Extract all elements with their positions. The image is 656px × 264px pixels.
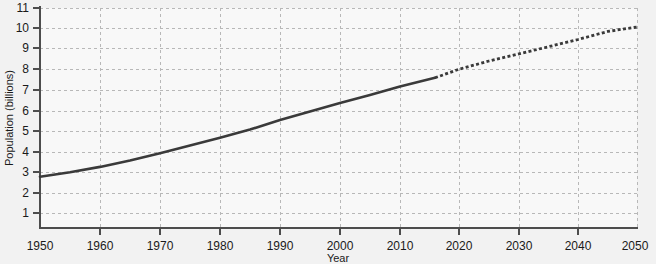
- y-axis-title: Population (billions): [3, 70, 15, 166]
- xtick-label-1960: 1960: [87, 239, 114, 253]
- xtick-label-1990: 1990: [267, 239, 294, 253]
- ytick-label-6: 6: [22, 104, 29, 118]
- ytick-label-7: 7: [22, 83, 29, 97]
- ytick-label-3: 3: [22, 165, 29, 179]
- ytick-label-4: 4: [22, 145, 29, 159]
- xtick-label-1950: 1950: [27, 239, 54, 253]
- ytick-label-8: 8: [22, 62, 29, 76]
- x-axis-title: Year: [327, 252, 350, 264]
- xtick-label-2030: 2030: [506, 239, 533, 253]
- ytick-label-2: 2: [22, 186, 29, 200]
- ytick-label-1: 1: [22, 206, 29, 220]
- population-chart: 11 10 9 8 7 6 5 4 3 2 1 1950 1960 1970 1…: [0, 0, 656, 264]
- ytick-label-11: 11: [17, 1, 30, 15]
- plot-area-background: [40, 8, 637, 228]
- xtick-label-2020: 2020: [446, 239, 473, 253]
- ytick-label-9: 9: [22, 41, 29, 55]
- xtick-label-2040: 2040: [565, 239, 592, 253]
- chart-canvas: 11 10 9 8 7 6 5 4 3 2 1 1950 1960 1970 1…: [0, 0, 656, 264]
- xtick-label-2010: 2010: [387, 239, 414, 253]
- xtick-label-2000: 2000: [327, 239, 354, 253]
- ytick-label-5: 5: [22, 124, 29, 138]
- xtick-label-2050: 2050: [622, 239, 649, 253]
- xtick-label-1980: 1980: [207, 239, 234, 253]
- ytick-label-10: 10: [16, 21, 30, 35]
- xtick-label-1970: 1970: [147, 239, 174, 253]
